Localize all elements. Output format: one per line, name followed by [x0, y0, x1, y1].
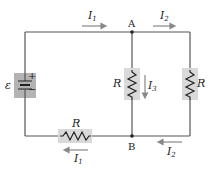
node-a-dot	[130, 30, 134, 34]
node-b-dot	[130, 134, 134, 138]
current-i1-bottom-label: I1	[73, 152, 83, 166]
emf-label: ε	[5, 79, 11, 92]
resistor-bottom	[58, 129, 92, 143]
resistor-right-label: R	[196, 77, 205, 90]
current-i2-bottom-label: I2	[166, 145, 176, 159]
current-i1-top-label: I1	[87, 9, 97, 23]
node-b-label: B	[128, 141, 135, 152]
wires	[25, 32, 190, 136]
resistor-middle-label: R	[112, 77, 121, 90]
battery: + −	[14, 70, 36, 98]
resistor-middle	[124, 68, 140, 100]
battery-plus: +	[28, 70, 36, 81]
node-a-label: A	[127, 18, 136, 29]
current-i2-top-label: I2	[159, 9, 169, 23]
circuit-diagram: + − ε A B R R R I1 I2 I3 I1 I2	[0, 0, 211, 170]
battery-minus: −	[28, 84, 36, 95]
resistor-right	[182, 68, 198, 100]
current-i3-label: I3	[147, 79, 157, 93]
resistor-bottom-label: R	[71, 117, 80, 130]
